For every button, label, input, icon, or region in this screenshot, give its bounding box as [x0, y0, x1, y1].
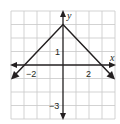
y-tick-label-1: 1: [55, 47, 60, 57]
y-axis-label: y: [66, 10, 72, 21]
x-axis-label: x: [109, 52, 115, 63]
y-tick-label-neg3: −3: [49, 101, 59, 111]
x-tick-label-neg2: −2: [26, 69, 36, 79]
coordinate-graph: y x 1 −2 2 −3: [0, 0, 120, 124]
x-tick-label-2: 2: [86, 69, 91, 79]
